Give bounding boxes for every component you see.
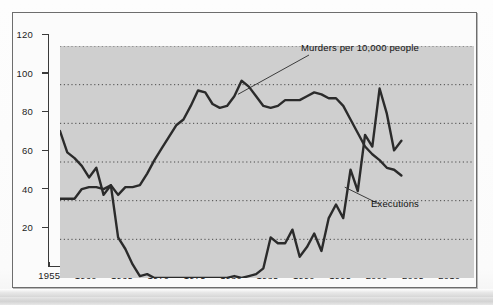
chart-svg xyxy=(60,46,474,278)
page-edge-shadow-lower xyxy=(0,297,493,305)
y-tick-20 xyxy=(42,227,49,228)
figure-root: 120 100 80 60 40 20 1955 1960 1965 xyxy=(0,0,493,305)
annotation-executions: Executions xyxy=(371,198,419,209)
plot-area xyxy=(60,46,474,278)
y-tick-40 xyxy=(42,188,49,189)
series-lines xyxy=(60,81,401,278)
y-tick-label-40: 40 xyxy=(7,184,33,195)
annotation-murders: Murders per 10,000 people xyxy=(301,42,419,53)
y-tick-60 xyxy=(42,150,49,151)
y-tick-label-100: 100 xyxy=(7,68,33,79)
y-tick-120 xyxy=(42,34,49,35)
x-tick-1955 xyxy=(49,262,50,267)
y-tick-label-20: 20 xyxy=(7,222,33,233)
leader-murders xyxy=(238,55,309,94)
y-tick-80 xyxy=(42,111,49,112)
y-tick-100 xyxy=(42,72,49,73)
y-tick-label-80: 80 xyxy=(7,106,33,117)
chart-frame: 120 100 80 60 40 20 1955 1960 1965 xyxy=(12,12,477,288)
y-tick-label-120: 120 xyxy=(7,29,33,40)
series-line-murders xyxy=(60,81,401,199)
y-tick-label-60: 60 xyxy=(7,145,33,156)
gridlines xyxy=(60,46,474,239)
